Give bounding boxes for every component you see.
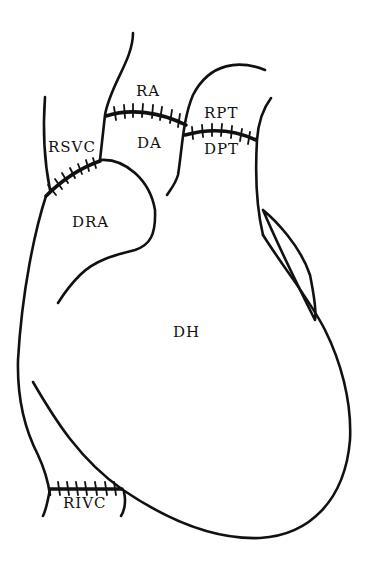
recipient-atrium-left-wall	[100, 33, 133, 160]
label-ra: RA	[136, 82, 160, 100]
ra-da-suture-ticks	[114, 104, 180, 127]
label-dpt: DPT	[204, 140, 239, 158]
label-dra: DRA	[72, 213, 109, 231]
rsvc-suture	[46, 161, 100, 196]
label-da: DA	[137, 134, 162, 152]
heart-diagram: RA RPT RSVC DA DPT DRA DH RIVC	[0, 0, 369, 562]
rivc-left-wall	[43, 489, 50, 516]
donor-right-atrium-outline	[58, 160, 155, 303]
label-rivc: RIVC	[63, 494, 107, 512]
label-rpt: RPT	[204, 104, 238, 122]
label-dh: DH	[173, 323, 200, 341]
heart-outline-bottom-right	[123, 235, 350, 538]
heart-outline-left	[18, 196, 50, 495]
label-rsvc: RSVC	[48, 138, 96, 156]
rivc-right-wall	[121, 492, 125, 516]
right-lobe-outline	[263, 210, 315, 320]
ra-da-suture	[106, 112, 186, 125]
